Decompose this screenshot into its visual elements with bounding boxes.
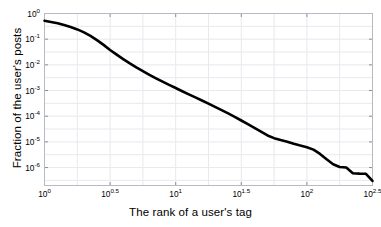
- x-tick-label: 102: [301, 189, 314, 199]
- x-tick-label: 100: [38, 189, 51, 199]
- x-tick-label: 102.5: [364, 189, 381, 199]
- x-axis-title: The rank of a user's tag: [0, 206, 381, 218]
- y-axis-title-wrapper: Fraction of the user's posts: [11, 3, 27, 193]
- x-tick-label: 101.5: [232, 189, 250, 199]
- x-tick-label: 101: [169, 189, 182, 199]
- chart-figure: 100100.5101101.5102102.5 10010-110-210-3…: [0, 0, 381, 227]
- y-axis-title: Fraction of the user's posts: [11, 3, 23, 193]
- x-tick-label: 100.5: [101, 189, 119, 199]
- log-log-plot: [0, 0, 381, 227]
